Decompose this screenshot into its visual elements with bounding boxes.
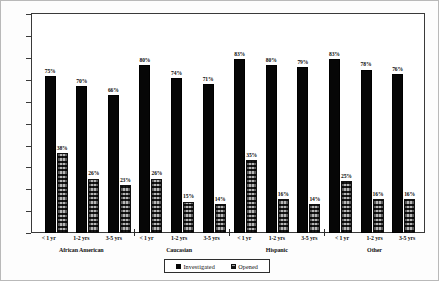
bar-investigated[interactable]: 80% [139, 14, 150, 233]
legend-item-opened[interactable]: Opened [231, 263, 258, 270]
bar-rect-opened[interactable] [341, 181, 352, 233]
bar-group: 83%25%78%16%76%16% [325, 14, 420, 233]
x-tick-label: < 1 yr [231, 235, 258, 241]
x-label-group: < 1 yr1-2 yrs3-5 yrs [228, 235, 326, 247]
y-axis-tick [26, 124, 31, 125]
x-group-label: Caucasian [130, 247, 228, 259]
bar-group: 83%35%80%16%79%14% [230, 14, 325, 233]
bar-rect-investigated[interactable] [45, 76, 56, 233]
bar-value-label: 83% [234, 52, 245, 58]
bar-investigated[interactable]: 76% [392, 14, 403, 233]
legend-label: Opened [238, 263, 258, 270]
bar-rect-investigated[interactable] [108, 95, 119, 233]
bar-rect-opened[interactable] [246, 160, 257, 233]
bar-opened[interactable]: 15% [183, 14, 194, 233]
bar-group: 80%26%74%15%71%14% [135, 14, 230, 233]
bar-investigated[interactable]: 83% [329, 14, 340, 233]
bar-rect-investigated[interactable] [171, 78, 182, 233]
bar-rect-opened[interactable] [373, 199, 384, 233]
bar-investigated[interactable]: 71% [203, 14, 214, 233]
bar-rect-investigated[interactable] [361, 70, 372, 233]
bar-value-label: 80% [139, 58, 150, 64]
chart-legend: InvestigatedOpened [164, 259, 270, 273]
x-label-group: < 1 yr1-2 yrs3-5 yrs [32, 235, 130, 247]
y-axis-tick [26, 14, 31, 15]
bar-cluster: 76%16% [391, 14, 417, 233]
bar-rect-opened[interactable] [278, 199, 289, 233]
bar-opened[interactable]: 26% [151, 14, 162, 233]
bar-rect-opened[interactable] [88, 179, 99, 233]
bar-rect-opened[interactable] [57, 153, 68, 233]
bar-value-label: 14% [309, 197, 320, 203]
bar-cluster: 74%15% [169, 14, 195, 233]
bar-value-label: 78% [361, 62, 372, 68]
x-tick-label: < 1 yr [133, 235, 160, 241]
bar-investigated[interactable]: 78% [361, 14, 372, 233]
bar-cluster: 70%26% [75, 14, 101, 233]
legend-item-investigated[interactable]: Investigated [176, 263, 215, 270]
x-tick-label: < 1 yr [328, 235, 355, 241]
bar-rect-investigated[interactable] [297, 67, 308, 233]
bar-rect-opened[interactable] [120, 185, 131, 233]
y-axis-tick [26, 233, 31, 234]
bar-opened[interactable]: 23% [120, 14, 131, 233]
x-tick-label: 3-5 yrs [198, 235, 225, 241]
bar-investigated[interactable]: 80% [266, 14, 277, 233]
x-axis-tick-labels: < 1 yr1-2 yrs3-5 yrs< 1 yr1-2 yrs3-5 yrs… [32, 235, 423, 247]
bar-investigated[interactable]: 75% [45, 14, 56, 233]
y-axis-tick [26, 211, 31, 212]
bar-value-label: 15% [183, 194, 194, 200]
bar-investigated[interactable]: 74% [171, 14, 182, 233]
bar-cluster: 80%16% [264, 14, 290, 233]
bar-investigated[interactable]: 79% [297, 14, 308, 233]
bar-opened[interactable]: 14% [309, 14, 320, 233]
bar-value-label: 79% [297, 60, 308, 66]
x-tick-label: 1-2 yrs [361, 235, 388, 241]
x-label-group: < 1 yr1-2 yrs3-5 yrs [326, 235, 424, 247]
bar-opened[interactable]: 16% [373, 14, 384, 233]
legend-label: Investigated [183, 263, 214, 270]
bar-rect-opened[interactable] [151, 179, 162, 233]
bar-rect-investigated[interactable] [392, 74, 403, 233]
bar-opened[interactable]: 38% [57, 14, 68, 233]
x-axis-group-labels: African AmericanCaucasianHispanicOther [32, 247, 423, 259]
bar-rect-opened[interactable] [215, 204, 226, 233]
bar-rect-investigated[interactable] [139, 65, 150, 233]
bar-value-label: 74% [171, 71, 182, 77]
bar-investigated[interactable]: 83% [234, 14, 245, 233]
bar-opened[interactable]: 35% [246, 14, 257, 233]
y-axis-tick [26, 146, 31, 147]
x-group-label: African American [32, 247, 130, 259]
x-tick-label: 1-2 yrs [263, 235, 290, 241]
bar-investigated[interactable]: 70% [76, 14, 87, 233]
bar-opened[interactable]: 16% [404, 14, 415, 233]
bar-rect-investigated[interactable] [76, 86, 87, 233]
bar-cluster: 78%16% [359, 14, 385, 233]
bar-rect-investigated[interactable] [329, 59, 340, 233]
bar-rect-investigated[interactable] [266, 65, 277, 233]
y-axis-tick [26, 189, 31, 190]
bar-rect-opened[interactable] [183, 202, 194, 233]
bar-group: 75%38%70%26%66%23% [40, 14, 135, 233]
bar-value-label: 75% [45, 69, 56, 75]
bar-rect-opened[interactable] [309, 204, 320, 233]
bar-rect-opened[interactable] [404, 199, 415, 233]
bar-value-label: 26% [151, 171, 162, 177]
bar-value-label: 16% [373, 192, 384, 198]
bar-opened[interactable]: 26% [88, 14, 99, 233]
bar-value-label: 14% [215, 197, 226, 203]
chart-figure: Percentage 75%38%70%26%66%23%80%26%74%15… [0, 0, 439, 281]
bar-cluster: 66%23% [106, 14, 132, 233]
bar-rect-investigated[interactable] [203, 84, 214, 233]
bar-opened[interactable]: 14% [215, 14, 226, 233]
bar-cluster: 75%38% [43, 14, 69, 233]
bar-value-label: 25% [341, 174, 352, 180]
bar-investigated[interactable]: 66% [108, 14, 119, 233]
bar-value-label: 35% [246, 153, 257, 159]
bar-rect-investigated[interactable] [234, 59, 245, 233]
bar-value-label: 26% [88, 171, 99, 177]
x-tick-label: < 1 yr [35, 235, 62, 241]
bar-opened[interactable]: 16% [278, 14, 289, 233]
bar-opened[interactable]: 25% [341, 14, 352, 233]
bar-value-label: 66% [108, 88, 119, 94]
